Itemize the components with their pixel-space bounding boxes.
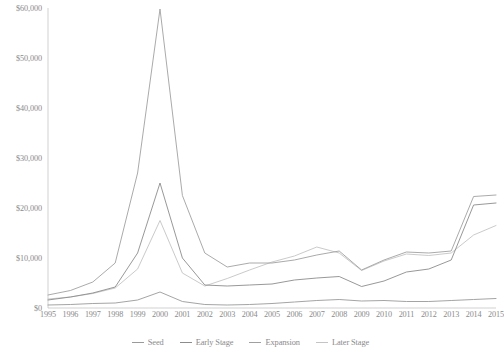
x-tick-label: 2005 (264, 310, 280, 319)
x-tick-label: 1996 (63, 310, 79, 319)
y-tick-label: $30,000 (16, 154, 42, 163)
legend-swatch-icon (249, 342, 261, 343)
x-tick-label: 2004 (242, 310, 258, 319)
chart-legend: SeedEarly StageExpansionLater Stage (0, 333, 501, 351)
y-tick-label: $40,000 (16, 104, 42, 113)
legend-label: Early Stage (196, 338, 234, 347)
x-tick-label: 2003 (219, 310, 235, 319)
x-tick-label: 2009 (354, 310, 370, 319)
x-tick-label: 2001 (175, 310, 191, 319)
x-tick-label: 1998 (107, 310, 123, 319)
legend-label: Expansion (265, 338, 299, 347)
x-tick-label: 2011 (399, 310, 414, 319)
y-axis: $0$10,000$20,000$30,000$40,000$50,000$60… (0, 0, 46, 312)
y-tick-label: $60,000 (16, 4, 42, 13)
legend-item[interactable]: Seed (132, 338, 164, 347)
x-tick-label: 2010 (376, 310, 392, 319)
plot-lines (48, 8, 496, 308)
series-line-early-stage (48, 183, 496, 300)
legend-item[interactable]: Expansion (249, 338, 299, 347)
legend-swatch-icon (180, 342, 192, 343)
x-axis: 1995199619971998199920002001200220032004… (48, 310, 496, 326)
x-tick-label: 2006 (287, 310, 303, 319)
legend-swatch-icon (316, 342, 328, 343)
y-tick-label: $10,000 (16, 254, 42, 263)
x-tick-label: 2002 (197, 310, 213, 319)
legend-item[interactable]: Later Stage (316, 338, 369, 347)
legend-item[interactable]: Early Stage (180, 338, 234, 347)
y-tick-label: $20,000 (16, 204, 42, 213)
x-tick-label: 1999 (130, 310, 146, 319)
legend-label: Later Stage (332, 338, 369, 347)
x-tick-label: 1995 (40, 310, 56, 319)
x-tick-label: 2007 (309, 310, 325, 319)
series-line-seed (48, 292, 496, 305)
x-tick-label: 2000 (152, 310, 168, 319)
plot-area (48, 8, 496, 308)
legend-label: Seed (148, 338, 164, 347)
series-line-expansion (48, 9, 496, 295)
x-tick-label: 2015 (488, 310, 504, 319)
x-tick-label: 1997 (85, 310, 101, 319)
legend-swatch-icon (132, 342, 144, 343)
x-tick-label: 2014 (466, 310, 482, 319)
y-tick-label: $50,000 (16, 54, 42, 63)
x-tick-label: 2012 (421, 310, 437, 319)
x-tick-label: 2013 (443, 310, 459, 319)
x-tick-label: 2008 (331, 310, 347, 319)
